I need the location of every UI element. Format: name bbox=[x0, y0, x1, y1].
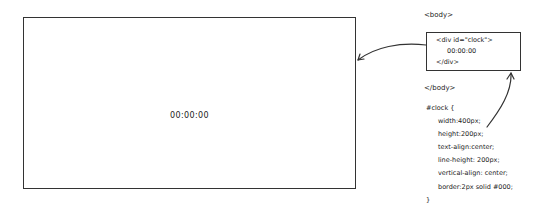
connector-arrows bbox=[0, 0, 553, 210]
arrow-html-to-preview-icon bbox=[358, 44, 426, 60]
arrow-css-to-html-icon bbox=[487, 73, 514, 127]
